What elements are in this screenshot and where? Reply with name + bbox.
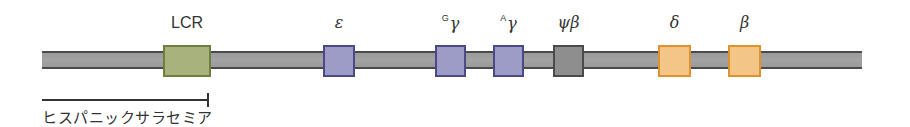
deletion-extent-line: [42, 99, 208, 101]
gene-label-text: γ: [507, 14, 517, 33]
gene-box-psi-beta: [553, 45, 584, 77]
deletion-end-tick: [207, 93, 209, 107]
gene-label-text: γ: [450, 14, 460, 33]
gene-label-g-gamma: Gγ: [442, 13, 460, 33]
gene-label-delta: δ: [670, 13, 680, 32]
gene-box-delta: [658, 45, 691, 77]
gene-label-text: LCR: [171, 14, 203, 31]
gene-label-text: ε: [335, 13, 344, 32]
gene-box-beta: [728, 45, 761, 77]
gene-label-prefix: A: [500, 13, 506, 23]
gene-label-text: δ: [670, 13, 680, 32]
gene-label-psi-beta: ψβ: [558, 13, 580, 32]
gene-box-g-gamma: [435, 45, 466, 77]
gene-label-lcr: LCR: [171, 14, 203, 32]
gene-label-text: ψβ: [558, 13, 580, 32]
gene-label-text: β: [740, 13, 749, 32]
gene-label-epsilon: ε: [335, 13, 344, 32]
gene-label-beta: β: [740, 13, 749, 32]
gene-label-a-gamma: Aγ: [500, 13, 517, 33]
gene-label-prefix: G: [442, 13, 449, 23]
gene-box-a-gamma: [493, 45, 524, 77]
deletion-label: ヒスパニックサラセミア: [42, 106, 213, 127]
gene-box-epsilon: [323, 45, 355, 77]
gene-box-lcr: [163, 45, 211, 77]
